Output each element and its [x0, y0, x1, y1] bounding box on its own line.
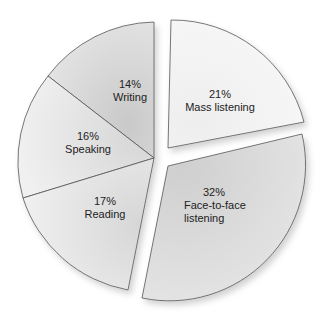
face-to-face-name-line1: Face-to-face: [184, 199, 264, 212]
writing-percent: 14%: [100, 78, 160, 91]
speaking-percent: 16%: [58, 130, 118, 143]
slice-mass-listening: [168, 20, 304, 148]
label-reading: 17% Reading: [75, 195, 135, 221]
reading-percent: 17%: [75, 195, 135, 208]
label-speaking: 16% Speaking: [58, 130, 118, 156]
label-mass-listening: 21% Mass listening: [180, 88, 260, 114]
mass-listening-percent: 21%: [180, 88, 260, 101]
writing-name: Writing: [100, 91, 160, 104]
reading-name: Reading: [75, 208, 135, 221]
label-face-to-face-listening: 32% Face-to-face listening: [184, 186, 264, 225]
mass-listening-name: Mass listening: [180, 101, 260, 114]
label-writing: 14% Writing: [100, 78, 160, 104]
speaking-name: Speaking: [58, 143, 118, 156]
face-to-face-percent: 32%: [184, 186, 264, 199]
face-to-face-name-line2: listening: [184, 212, 264, 225]
pie-chart: [0, 0, 325, 319]
